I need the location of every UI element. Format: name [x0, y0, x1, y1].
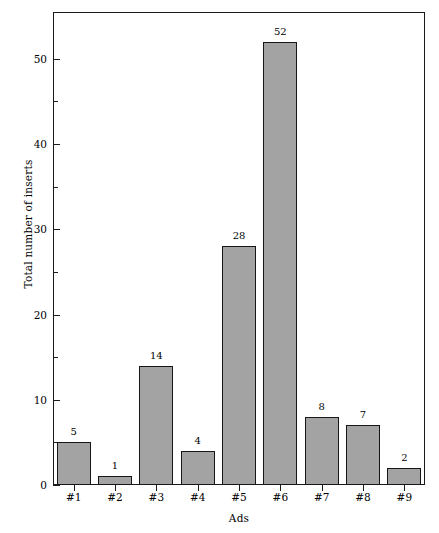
- y-axis-tick-minor: [53, 357, 58, 358]
- bar-value-label: 14: [133, 351, 179, 361]
- y-axis-tick-minor: [53, 101, 58, 102]
- x-axis-tick-label: #9: [381, 492, 427, 503]
- y-axis-tick-label: 0: [7, 480, 47, 491]
- bar-ad3: [139, 366, 173, 485]
- y-axis-tick-major: [53, 315, 60, 316]
- bar-ad1: [57, 442, 91, 485]
- bar-value-label: 2: [381, 453, 427, 463]
- y-axis-tick-major: [53, 485, 60, 486]
- bar-ad5: [222, 246, 256, 485]
- bar-ad9: [387, 468, 421, 485]
- bar-value-label: 7: [340, 410, 386, 420]
- y-axis-tick-major: [53, 144, 60, 145]
- bar-ad8: [346, 425, 380, 485]
- y-axis-tick-major: [53, 400, 60, 401]
- y-axis-tick-label: 50: [7, 54, 47, 65]
- y-axis-tick-label: 30: [7, 224, 47, 235]
- x-axis-tick-label: #6: [257, 492, 303, 503]
- bar-ad4: [181, 451, 215, 485]
- y-axis-tick-major: [53, 59, 60, 60]
- bar-value-label: 4: [175, 436, 221, 446]
- y-axis-tick-major: [53, 229, 60, 230]
- bar-ad2: [98, 476, 132, 485]
- x-axis-tick-label: #1: [51, 492, 97, 503]
- bar-chart-figure: Total number of inserts Ads 010203040505…: [0, 0, 439, 533]
- x-axis-tick-label: #2: [92, 492, 138, 503]
- bar-value-label: 1: [92, 461, 138, 471]
- x-axis-title: Ads: [53, 512, 425, 524]
- x-axis-tick-label: #3: [133, 492, 179, 503]
- y-axis-tick-label: 20: [7, 310, 47, 321]
- bar-ad6: [263, 42, 297, 485]
- x-axis-tick-label: #5: [216, 492, 262, 503]
- x-axis-tick-label: #7: [299, 492, 345, 503]
- x-axis-tick-label: #8: [340, 492, 386, 503]
- x-axis-tick-label: #4: [175, 492, 221, 503]
- y-axis-tick-label: 10: [7, 395, 47, 406]
- bar-value-label: 28: [216, 231, 262, 241]
- bar-value-label: 5: [51, 427, 97, 437]
- y-axis-tick-minor: [53, 187, 58, 188]
- bar-value-label: 8: [299, 402, 345, 412]
- bar-ad7: [305, 417, 339, 485]
- bar-value-label: 52: [257, 27, 303, 37]
- y-axis-tick-minor: [53, 272, 58, 273]
- y-axis-tick-label: 40: [7, 139, 47, 150]
